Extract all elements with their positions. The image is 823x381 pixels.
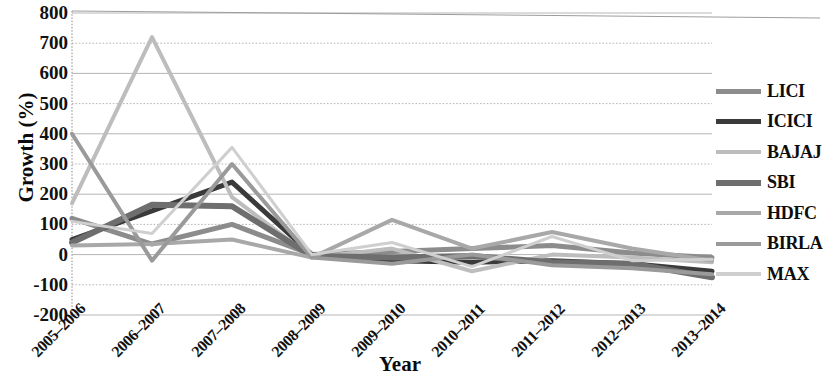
y-axis-tick-labels: 8007006005004003002001000-100-200 [0,0,68,330]
legend-label: MAX [767,264,809,285]
legend-item-sbi[interactable]: SBI [716,168,821,199]
legend-swatch-icon [716,211,761,215]
legend-label: SBI [767,172,795,193]
legend-item-birla[interactable]: BIRLA [716,229,821,260]
legend-item-lici[interactable]: LICI [716,76,821,107]
legend-swatch-icon [716,150,761,154]
legend-item-hdfc[interactable]: HDFC [716,198,821,229]
legend-label: ICICI [767,111,813,132]
legend-label: BAJAJ [767,142,822,163]
y-tick-label: -100 [6,275,68,294]
y-tick-label: 200 [6,184,68,203]
y-tick-label: 300 [6,154,68,173]
series-line-bajaj [72,37,712,271]
y-tick-label: 500 [6,94,68,113]
y-tick-label: 700 [6,33,68,52]
chart-legend: LICIICICIBAJAJSBIHDFCBIRLAMAX [716,76,821,290]
y-tick-label: 400 [6,124,68,143]
legend-label: BIRLA [767,233,823,254]
y-tick-label: 800 [6,3,68,22]
x-axis-title: Year [330,352,470,377]
legend-swatch-icon [716,242,761,246]
legend-label: HDFC [767,203,817,224]
y-tick-label: 600 [6,63,68,82]
legend-item-icici[interactable]: ICICI [716,107,821,138]
legend-swatch-icon [716,89,761,94]
legend-label: LICI [767,81,805,102]
legend-swatch-icon [716,119,761,124]
y-tick-label: 100 [6,214,68,233]
legend-item-max[interactable]: MAX [716,259,821,290]
legend-swatch-icon [716,180,761,186]
plot-top-border [72,11,820,18]
y-tick-label: 0 [6,245,68,264]
legend-item-bajaj[interactable]: BAJAJ [716,137,821,168]
legend-swatch-icon [716,272,761,276]
